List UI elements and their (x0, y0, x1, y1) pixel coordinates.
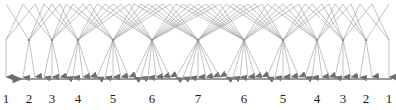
trellis-node (365, 39, 368, 41)
trellis-branch-arrow (152, 40, 156, 77)
trellis-edge-up (329, 4, 343, 40)
trellis-branches (6, 40, 389, 77)
trellis-branch-arrow (198, 40, 220, 77)
trellis-edge-up (52, 4, 66, 40)
trellis-edge-up (152, 4, 198, 40)
trellis-edge-up (29, 4, 52, 40)
trellis-edge-up (163, 4, 198, 40)
trellis-edge-up (283, 4, 317, 40)
trellis-branch-arrow (283, 40, 299, 77)
trellis-edge-up (312, 4, 343, 40)
trellis-edge-up (52, 4, 78, 40)
trellis-edge-up (78, 4, 105, 40)
trellis-edge-up (29, 4, 44, 40)
trellis-edges (6, 4, 389, 40)
trellis-node (28, 39, 31, 41)
trellis-branch-arrow (366, 40, 372, 77)
trellis-branch-arrow (317, 40, 329, 77)
trellis-node (197, 39, 200, 41)
trellis-edge-up (6, 4, 29, 40)
trellis-edge-up (78, 4, 113, 40)
trellis-edge-up (141, 4, 198, 40)
trellis-branch-arrow (244, 40, 248, 77)
trellis-edge-up (198, 4, 244, 40)
trellis-branch-arrow (52, 40, 60, 77)
trellis-node (151, 39, 154, 41)
trellis-branch-arrow (23, 40, 29, 77)
trellis-branch-arrow (343, 40, 351, 77)
trellis-edge-up (351, 4, 366, 40)
trellis-branch-arrow (29, 40, 35, 77)
trellis-branch-arrow (113, 40, 121, 77)
trellis-branch-arrow (183, 40, 198, 77)
trellis-branch-arrow (44, 40, 52, 77)
trellis-node (342, 39, 345, 41)
trellis-branch-arrow (317, 40, 322, 77)
trellis-branch-arrow (244, 40, 255, 77)
trellis-edge-up (213, 4, 244, 40)
trellis-edge-up (198, 4, 233, 40)
trellis-branch-arrow (66, 40, 78, 77)
trellis-node (282, 39, 285, 41)
trellis-branch-arrow (244, 40, 262, 77)
trellis-edge-up (283, 4, 312, 40)
trellis-branch-arrow (134, 40, 152, 77)
trellis-node (112, 39, 115, 41)
trellis-edge-up (90, 4, 113, 40)
trellis-edge-up (52, 4, 83, 40)
trellis-branch-arrow (305, 40, 317, 77)
trellis-edge-up (113, 4, 148, 40)
trellis-edge-up (343, 4, 366, 40)
trellis-branch-arrow (190, 40, 198, 77)
trellis-node (316, 39, 319, 41)
trellis-edge-up (152, 4, 183, 40)
trellis-branch-arrow (97, 40, 113, 77)
trellis-edge-up (244, 4, 291, 40)
trellis-branch-arrow (73, 40, 78, 77)
trellis-node (77, 39, 80, 41)
trellis-branch-arrow (141, 40, 152, 77)
trellis-edge-up (248, 4, 283, 40)
trellis-branch-arrow (226, 40, 244, 77)
trellis-branch-arrow (105, 40, 113, 77)
trellis-nodes (28, 39, 368, 41)
trellis-diagram (0, 0, 396, 110)
trellis-node (51, 39, 54, 41)
trellis-branch-arrow (312, 40, 317, 77)
trellis-edge-up (240, 4, 283, 40)
trellis-branch-arrow (267, 40, 283, 77)
trellis-branch-arrow (240, 40, 244, 77)
trellis-branch-arrow (233, 40, 244, 77)
trellis-edge-up (291, 4, 317, 40)
trellis-edge-up (190, 4, 244, 40)
trellis-branch-arrow (283, 40, 291, 77)
trellis-branch-arrow (275, 40, 283, 77)
trellis-branch-arrow (152, 40, 163, 77)
trellis-node (243, 39, 246, 41)
trellis-branch-arrow (113, 40, 129, 77)
trellis-figure: 1234567654321 (0, 0, 396, 110)
trellis-branch-arrow (335, 40, 343, 77)
trellis-branch-arrow (78, 40, 83, 77)
trellis-branch-arrow (360, 40, 366, 77)
trellis-branch-arrow (148, 40, 152, 77)
trellis-edge-up (317, 4, 343, 40)
trellis-edge-up (73, 4, 113, 40)
trellis-edge-up (366, 4, 389, 40)
trellis-edge-up (105, 4, 152, 40)
trellis-edge-up (283, 4, 322, 40)
trellis-branch-arrow (176, 40, 198, 77)
trellis-branch-arrow (78, 40, 90, 77)
trellis-branch-arrow (198, 40, 213, 77)
trellis-branch-arrow (152, 40, 170, 77)
trellis-branch-arrow (198, 40, 206, 77)
